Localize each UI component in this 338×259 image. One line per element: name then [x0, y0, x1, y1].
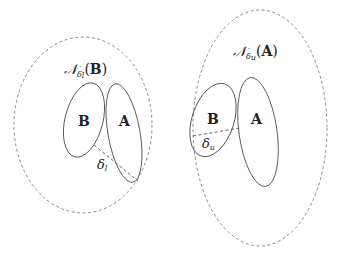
neighborhood-of-a-label: 𝒩δu(A) — [233, 43, 278, 62]
set-b-right-label: B — [207, 111, 219, 127]
set-a-left-label: A — [118, 113, 131, 129]
delta-u-distance-line — [193, 128, 240, 136]
right-panel: B A δu 𝒩δu(A) — [181, 10, 327, 246]
left-panel: B A δl 𝒩δl(B) — [14, 37, 152, 213]
set-a-right-label: A — [250, 111, 263, 127]
neighborhood-of-b-label: 𝒩δl(B) — [64, 61, 107, 80]
hausdorff-distance-diagram: B A δl 𝒩δl(B) B A δu 𝒩δu(A) — [0, 0, 338, 259]
delta-l-label: δl — [97, 157, 108, 173]
delta-u-label: δu — [202, 136, 215, 152]
set-b-left-label: B — [78, 113, 90, 129]
set-a-right — [232, 75, 285, 189]
